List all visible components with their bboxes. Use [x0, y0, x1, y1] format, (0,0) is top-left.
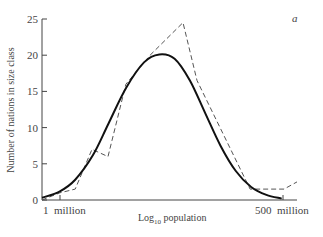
- y-tick-label: 0: [33, 194, 39, 206]
- y-axis-label: Number of nations in size class: [5, 47, 16, 172]
- x-tick-label-1-million: 1 million: [43, 204, 86, 216]
- y-tick-label: 20: [27, 49, 39, 61]
- fitted-curve-line: [42, 54, 282, 198]
- y-tick-label: 25: [27, 13, 39, 25]
- y-tick-label: 10: [27, 122, 39, 134]
- y-tick-label: 5: [33, 158, 39, 170]
- x-axis-label: Log10 population: [138, 212, 206, 226]
- y-tick-label: 15: [27, 85, 39, 97]
- x-ticks: [60, 195, 283, 200]
- y-ticks: 0510152025: [27, 13, 47, 206]
- chart: 0510152025 1 million 500 million Log10 p…: [0, 0, 323, 237]
- panel-label: a: [292, 12, 298, 24]
- x-tick-label-500-million: 500 million: [255, 204, 309, 216]
